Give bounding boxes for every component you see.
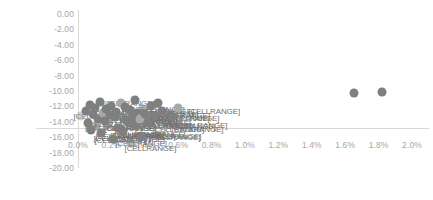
y-tick-label: -12.00 xyxy=(32,101,74,111)
data-point[interactable] xyxy=(97,129,106,138)
data-point[interactable] xyxy=(167,113,176,122)
y-tick-label: -4.00 xyxy=(32,40,74,50)
data-point[interactable] xyxy=(140,110,149,119)
data-point[interactable] xyxy=(174,103,183,112)
y-tick-label: -8.00 xyxy=(32,71,74,81)
y-tick-label: -10.00 xyxy=(32,86,74,96)
x-tick-label: 1.6% xyxy=(335,140,355,150)
x-tick-label: 1.8% xyxy=(369,140,389,150)
y-tick-label: -14.00 xyxy=(32,117,74,127)
y-tick-label: -2.00 xyxy=(32,24,74,34)
y-tick-label: 0.00 xyxy=(32,9,74,19)
y-axis-tick-labels: 0.00-2.00-4.00-6.00-8.00-10.00-12.00-14.… xyxy=(26,0,74,200)
data-point[interactable] xyxy=(349,88,358,97)
data-point[interactable] xyxy=(144,119,153,128)
data-label: [CELLRANGE] xyxy=(188,106,240,115)
scatter-chart: 0.00-2.00-4.00-6.00-8.00-10.00-12.00-14.… xyxy=(0,0,433,200)
data-point[interactable] xyxy=(130,96,139,105)
x-tick-label: 0.0% xyxy=(68,140,88,150)
x-tick-label: 1.0% xyxy=(235,140,255,150)
x-tick-label: 2.0% xyxy=(402,140,422,150)
data-point[interactable] xyxy=(377,87,386,96)
data-point[interactable] xyxy=(104,120,113,129)
data-point[interactable] xyxy=(109,134,118,143)
data-point[interactable] xyxy=(127,139,136,148)
data-point[interactable] xyxy=(119,127,128,136)
data-label: [CELLRANGE] xyxy=(172,125,224,134)
plot-area: 0.00-2.00-4.00-6.00-8.00-10.00-12.00-14.… xyxy=(0,0,433,200)
data-point[interactable] xyxy=(137,131,146,140)
x-tick-label: 1.4% xyxy=(302,140,322,150)
x-tick-label: 1.2% xyxy=(269,140,289,150)
x-tick-label: 0.8% xyxy=(202,140,222,150)
y-tick-label: -20.00 xyxy=(32,163,74,173)
y-tick-label: -6.00 xyxy=(32,55,74,65)
